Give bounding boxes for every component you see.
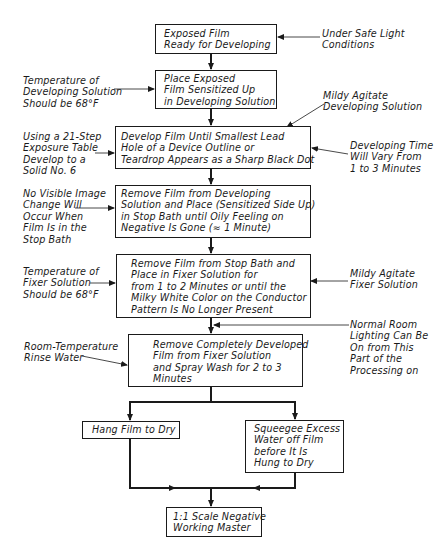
step-stop-bath-box: Remove Film from Developing Solution and… <box>115 185 311 238</box>
note-no-visible-change: No Visible Image Change Will Occur When … <box>23 188 106 245</box>
step-develop-film-box: Develop Film Until Smallest Lead Hole of… <box>115 126 311 169</box>
step-working-master-box: 1:1 Scale Negative Working Master <box>166 507 262 537</box>
step-rinse-text: Remove Completely Developed Film from Fi… <box>153 339 302 385</box>
note-fixer-temperature: Temperature of Fixer Solution Should be … <box>23 266 99 300</box>
note-rinse-water: Room-Temperature Rinse Water <box>24 341 118 364</box>
step-develop-film-text: Develop Film Until Smallest Lead Hole of… <box>121 131 310 165</box>
step-stop-bath-text: Remove Film from Developing Solution and… <box>121 188 310 234</box>
step-exposed-film-text: Exposed Film Ready for Developing <box>164 28 276 51</box>
step-place-in-developer-text: Place Exposed Film Sensitized Up in Deve… <box>164 73 276 107</box>
step-working-master-text: 1:1 Scale Negative Working Master <box>173 511 261 534</box>
note-normal-room-lighting: Normal Room Lighting Can Be On from This… <box>350 319 428 376</box>
note-developing-time: Developing Time Will Vary From 1 to 3 Mi… <box>350 140 433 174</box>
film-processing-flowchart: Exposed Film Ready for Developing Place … <box>0 0 447 551</box>
step-fixer-box: Remove Film from Stop Bath and Place in … <box>116 254 311 318</box>
step-place-in-developer-box: Place Exposed Film Sensitized Up in Deve… <box>155 70 277 109</box>
note-safe-light: Under Safe Light Conditions <box>322 28 405 51</box>
step-squeegee-text: Squeegee Excess Water off Film before It… <box>254 423 343 469</box>
note-agitate-developer: Mildy Agitate Developing Solution <box>323 90 422 113</box>
step-fixer-text: Remove Film from Stop Bath and Place in … <box>131 258 310 315</box>
note-21-step-exposure: Using a 21-Step Exposure Table Develop t… <box>23 131 102 177</box>
note-agitate-fixer: Mildy Agitate Fixer Solution <box>350 268 418 291</box>
note-developer-temperature: Temperature of Developing Solution Shoul… <box>23 75 122 109</box>
step-hang-dry-box: Hang Film to Dry <box>82 421 180 439</box>
step-hang-dry-text: Hang Film to Dry <box>92 424 179 435</box>
step-rinse-box: Remove Completely Developed Film from Fi… <box>128 334 303 387</box>
step-squeegee-box: Squeegee Excess Water off Film before It… <box>245 420 344 473</box>
step-exposed-film-box: Exposed Film Ready for Developing <box>155 24 277 54</box>
